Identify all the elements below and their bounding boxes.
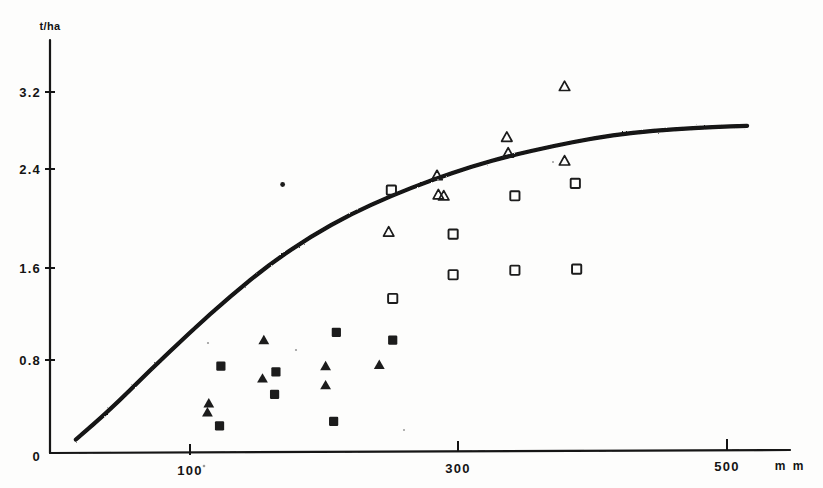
data-point-filled-triangle [258, 335, 269, 344]
fitted-response-curve [76, 126, 747, 440]
data-point-open-square [510, 266, 519, 275]
scatter-plot-canvas: 3.2 2.4 1.6 0.8 0 100 300 500 t/ha m m [0, 0, 823, 488]
data-point-filled-square [388, 336, 397, 345]
data-point-filled-square [332, 328, 341, 337]
data-point-speck [280, 182, 285, 187]
y-tick-label-3.2: 3.2 [19, 85, 41, 100]
y-tick-label-2.4: 2.4 [19, 162, 41, 177]
data-point-filled-triangle [320, 380, 331, 389]
data-point-open-square [388, 294, 397, 303]
data-markers-group [202, 81, 581, 430]
chart-figure: 3.2 2.4 1.6 0.8 0 100 300 500 t/ha m m [0, 0, 823, 488]
data-point-open-triangle [559, 156, 569, 165]
speck-icon [403, 429, 405, 431]
speck-icon [295, 349, 297, 351]
speck-icon [207, 342, 209, 344]
data-point-open-square [449, 230, 458, 239]
x-tick-label-100: 100 [177, 463, 202, 478]
data-point-filled-square [270, 390, 279, 399]
data-point-filled-triangle [203, 398, 214, 407]
data-point-open-square [571, 179, 580, 188]
data-point-filled-triangle [257, 373, 268, 382]
speck-icon [437, 179, 439, 181]
axes-group [50, 40, 790, 453]
speck-icon [552, 161, 554, 163]
data-point-filled-square [215, 421, 224, 430]
data-point-open-square [449, 270, 458, 279]
x-tick-label-500: 500 [714, 459, 739, 474]
data-point-filled-triangle [320, 361, 331, 370]
x-axis-line [50, 450, 790, 453]
data-point-open-square [510, 191, 519, 200]
data-point-open-square [572, 265, 581, 274]
y-tick-label-1.6: 1.6 [19, 261, 41, 276]
scan-artifacts [203, 161, 554, 467]
data-point-open-triangle [559, 81, 569, 90]
data-point-filled-square [329, 417, 338, 426]
x-tick-label-300: 300 [445, 461, 470, 476]
y-axis-title: t/ha [40, 20, 61, 32]
data-point-filled-triangle [202, 407, 213, 416]
y-tick-label-0: 0 [33, 449, 41, 464]
data-point-filled-square [216, 362, 225, 371]
data-point-filled-square [271, 367, 280, 376]
data-point-filled-triangle [374, 360, 385, 369]
x-axis-title: m m [775, 459, 806, 473]
speck-icon [203, 465, 206, 468]
data-point-open-triangle [383, 227, 393, 236]
data-point-open-triangle [502, 132, 512, 141]
y-tick-label-0.8: 0.8 [19, 353, 41, 368]
